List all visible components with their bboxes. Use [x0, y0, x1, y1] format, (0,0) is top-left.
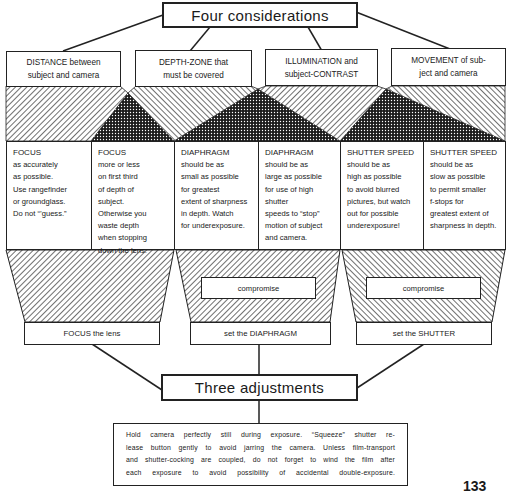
column-line: should be as: [181, 159, 253, 171]
column-line: large as possible: [265, 171, 335, 183]
compromise-box-shutter: compromise: [366, 277, 481, 299]
column-line: for greatest: [181, 184, 253, 196]
column-line: as accurately: [13, 159, 86, 171]
column-line: f-stops for: [430, 196, 499, 208]
column-focus-depth: FOCUS more or less on first third of dep…: [91, 141, 175, 250]
column-line: of depth of: [98, 184, 169, 196]
consideration-illumination: ILLUMINATION andsubject-CONTRAST: [265, 49, 378, 86]
title-text: Four considerations: [191, 7, 328, 24]
consideration-line: subject and camera: [26, 69, 100, 82]
column-heading: FOCUS: [13, 147, 86, 159]
column-focus-accurate: FOCUS as accurately as possible. Use ran…: [6, 141, 92, 250]
column-shutter-slow: SHUTTER SPEED should be as slow as possi…: [423, 141, 506, 250]
column-shutter-high: SHUTTER SPEED should be as high as possi…: [340, 141, 424, 250]
column-line: and camera.: [265, 232, 335, 244]
column-line: high as possible: [347, 171, 418, 183]
column-line: waste depth: [98, 220, 169, 232]
column-line: Do not “’guess.”: [13, 208, 86, 220]
column-line: subject.: [98, 196, 169, 208]
column-line: out for possible: [347, 208, 418, 220]
adjustment-label: FOCUS the lens: [64, 329, 121, 338]
column-line: greatest extent of: [430, 208, 499, 220]
column-diaphragm-large: DIAPHRAGM should be as large as possible…: [258, 141, 341, 250]
adjustment-label: set the SHUTTER: [393, 329, 455, 338]
note-line: and shutter-cocking are coupled, do not …: [126, 454, 395, 467]
column-line: Otherwise you: [98, 208, 169, 220]
column-line: pictures, but watch: [347, 196, 418, 208]
instruction-note: Hold camera perfectly still during expos…: [113, 423, 408, 486]
column-line: down the lens.: [98, 245, 169, 257]
column-line: when stopping: [98, 232, 169, 244]
column-line: should be as: [265, 159, 335, 171]
column-diaphragm-small: DIAPHRAGM should be as small as possible…: [174, 141, 259, 250]
column-line: in depth. Watch: [181, 208, 253, 220]
adjustment-shutter: set the SHUTTER: [356, 322, 492, 345]
column-line: small as possible: [181, 171, 253, 183]
column-line: or groundglass.: [13, 196, 86, 208]
column-line: speeds to “stop”: [265, 208, 335, 220]
compromise-box-diaphragm: compromise: [201, 277, 316, 299]
column-line: should be as: [347, 159, 418, 171]
column-line: as possible.: [13, 171, 86, 183]
page-number: 133: [463, 478, 486, 494]
adjustment-label: set the DIAPHRAGM: [224, 329, 297, 338]
column-line: for use of high: [265, 184, 335, 196]
column-line: to avoid blurred: [347, 184, 418, 196]
consideration-line: ject and camera: [411, 67, 485, 80]
consideration-line: must be covered: [159, 69, 228, 82]
note-line: lease button gently to avoid jarring the…: [126, 442, 395, 455]
column-line: motion of subject: [265, 220, 335, 232]
consideration-line: DEPTH-ZONE that: [159, 56, 228, 69]
adjustment-diaphragm: set the DIAPHRAGM: [190, 322, 331, 345]
column-heading: DIAPHRAGM: [265, 147, 335, 159]
column-line: shutter: [265, 196, 335, 208]
compromise-label: compromise: [403, 284, 444, 293]
consideration-line: MOVEMENT of sub-: [411, 54, 485, 67]
column-line: to permit smaller: [430, 184, 499, 196]
consideration-movement: MOVEMENT of sub-ject and camera: [391, 48, 506, 86]
column-line: on first third: [98, 171, 169, 183]
column-line: sharpness in depth.: [430, 220, 499, 232]
consideration-distance: DISTANCE betweensubject and camera: [6, 51, 121, 87]
note-line: Hold camera perfectly still during expos…: [126, 429, 395, 442]
column-heading: DIAPHRAGM: [181, 147, 253, 159]
consideration-line: ILLUMINATION and: [285, 55, 359, 68]
subtitle-text: Three adjustments: [195, 379, 324, 396]
column-line: slow as possible: [430, 171, 499, 183]
column-line: should be as: [430, 159, 499, 171]
compromise-label: compromise: [238, 284, 279, 293]
note-line: each exposure to avoid possibility of ac…: [126, 467, 395, 480]
column-heading: SHUTTER SPEED: [347, 147, 418, 159]
consideration-line: DISTANCE between: [26, 56, 100, 69]
column-line: more or less: [98, 159, 169, 171]
column-heading: FOCUS: [98, 147, 169, 159]
subtitle-box: Three adjustments: [161, 374, 358, 401]
column-line: Use rangefinder: [13, 184, 86, 196]
column-line: extent of sharpness: [181, 196, 253, 208]
consideration-line: subject-CONTRAST: [285, 68, 359, 81]
title-box: Four considerations: [162, 2, 358, 28]
consideration-depth-zone: DEPTH-ZONE thatmust be covered: [135, 50, 252, 87]
column-heading: SHUTTER SPEED: [430, 147, 499, 159]
column-line: underexposure!: [347, 220, 418, 232]
adjustment-focus: FOCUS the lens: [24, 322, 160, 345]
column-line: for underexposure.: [181, 220, 253, 232]
